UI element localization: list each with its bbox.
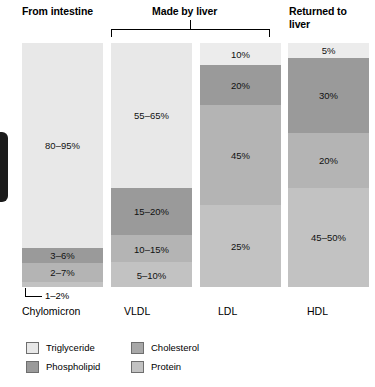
chylomicron-protein-leader-line xyxy=(25,288,42,297)
chylomicron-protein-callout-label: 1–2% xyxy=(45,290,69,301)
legend-swatch-protein xyxy=(131,361,144,373)
bar-segment-hdl-phospholipid: 30% xyxy=(288,58,369,133)
legend-item-protein: Protein xyxy=(131,357,199,376)
bar-segment-vldl-cholesterol: 10–15% xyxy=(111,235,192,262)
legend-column-1: CholesterolProtein xyxy=(131,338,199,376)
bar-segment-label: 15–20% xyxy=(111,206,192,217)
bar-segment-label: 5–10% xyxy=(111,269,192,280)
legend-item-cholesterol: Cholesterol xyxy=(131,338,199,357)
bar-segment-vldl-triglyceride: 55–65% xyxy=(111,43,192,188)
bar-segment-label: 5% xyxy=(288,45,369,56)
legend-item-phospholipid: Phospholipid xyxy=(26,357,100,376)
bar-column-ldl: 10%20%45%25% xyxy=(200,43,281,287)
category-label-ldl: LDL xyxy=(218,305,237,317)
bar-segment-vldl-phospholipid: 15–20% xyxy=(111,188,192,235)
legend-swatch-cholesterol xyxy=(131,342,144,354)
legend-label: Cholesterol xyxy=(151,342,199,353)
bar-segment-label: 45–50% xyxy=(288,232,369,243)
bar-column-chylomicron: 80–95%3–6%2–7% xyxy=(22,43,103,287)
legend-item-triglyceride: Triglyceride xyxy=(26,338,100,357)
bar-segment-chylomicron-phospholipid: 3–6% xyxy=(22,248,103,263)
bar-segment-ldl-protein: 25% xyxy=(200,205,281,287)
legend-swatch-triglyceride xyxy=(26,342,39,354)
legend-swatch-phospholipid xyxy=(26,361,39,373)
bar-segment-label: 55–65% xyxy=(111,110,192,121)
bar-segment-ldl-triglyceride: 10% xyxy=(200,43,281,65)
bar-column-hdl: 5%30%20%45–50% xyxy=(288,43,369,287)
bar-segment-ldl-cholesterol: 45% xyxy=(200,105,281,205)
legend-label: Triglyceride xyxy=(46,342,95,353)
bar-segment-hdl-protein: 45–50% xyxy=(288,188,369,287)
bar-segment-label: 45% xyxy=(200,149,281,160)
bar-segment-label: 25% xyxy=(200,240,281,251)
bar-segment-label: 2–7% xyxy=(22,267,103,278)
bar-segment-ldl-phospholipid: 20% xyxy=(200,65,281,105)
bar-segment-vldl-protein: 5–10% xyxy=(111,262,192,287)
bar-column-vldl: 55–65%15–20%10–15%5–10% xyxy=(111,43,192,287)
legend-column-0: TriglyceridePhospholipid xyxy=(26,338,100,376)
bar-segment-label: 20% xyxy=(288,155,369,166)
bar-segment-hdl-cholesterol: 20% xyxy=(288,133,369,188)
bar-segment-chylomicron-triglyceride: 80–95% xyxy=(22,43,103,248)
bar-segment-label: 20% xyxy=(200,79,281,90)
legend-label: Protein xyxy=(151,361,181,372)
bar-segment-label: 3–6% xyxy=(22,250,103,261)
bar-segment-label: 10–15% xyxy=(111,243,192,254)
bar-segment-label: 80–95% xyxy=(22,140,103,151)
lipoprotein-composition-chart: 80–95%3–6%2–7%55–65%15–20%10–15%5–10%10%… xyxy=(0,0,375,300)
legend-label: Phospholipid xyxy=(46,361,100,372)
bar-segment-label: 10% xyxy=(200,48,281,59)
category-label-hdl: HDL xyxy=(307,305,328,317)
category-label-chylomicron: Chylomicron xyxy=(22,305,80,317)
category-label-vldl: VLDL xyxy=(124,305,150,317)
bar-segment-chylomicron-cholesterol: 2–7% xyxy=(22,263,103,283)
bar-segment-chylomicron-protein xyxy=(22,282,103,287)
bar-segment-hdl-triglyceride: 5% xyxy=(288,43,369,58)
bar-segment-label: 30% xyxy=(288,90,369,101)
